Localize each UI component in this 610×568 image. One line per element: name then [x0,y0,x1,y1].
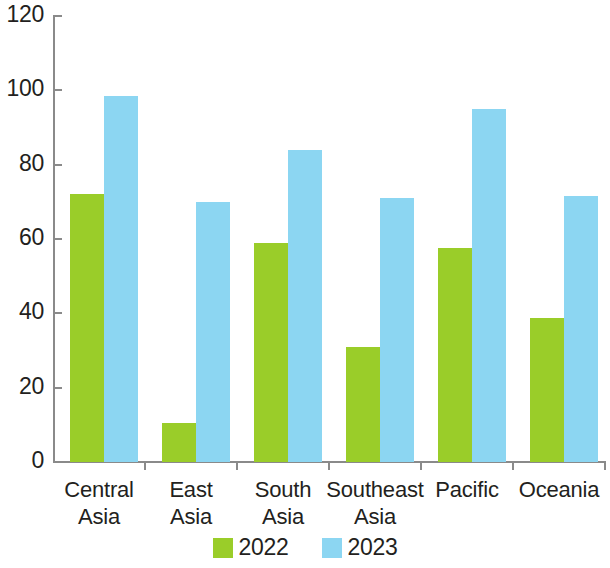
x-axis-category-label: Oceania [505,476,610,503]
bar-group [162,16,230,462]
bar [104,96,138,462]
legend-label: 2023 [348,536,398,559]
chart-legend: 20222023 [0,536,610,559]
legend-item[interactable]: 2022 [213,536,289,559]
legend-swatch-icon [213,538,233,558]
bar-chart: 120100806040200 Central AsiaEast AsiaSou… [0,0,610,568]
bar [346,347,380,462]
legend-swatch-icon [322,538,342,558]
bars-layer [0,16,610,462]
bar-group [70,16,138,462]
x-axis-tick [328,461,330,470]
x-axis-tick [236,461,238,470]
x-axis-tick [144,461,146,470]
x-axis-tick [512,461,514,470]
bar [288,150,322,462]
bar-group [346,16,414,462]
bar [564,196,598,462]
bar [70,194,104,462]
x-axis-tick [604,461,606,470]
bar [438,248,472,462]
bar-group [530,16,598,462]
bar [162,423,196,462]
legend-item[interactable]: 2023 [322,536,398,559]
bar [254,243,288,462]
bar [380,198,414,462]
legend-label: 2022 [239,536,289,559]
bar-group [254,16,322,462]
bar [530,318,564,462]
bar [472,109,506,462]
bar-group [438,16,506,462]
bar [196,202,230,462]
x-axis-tick [420,461,422,470]
